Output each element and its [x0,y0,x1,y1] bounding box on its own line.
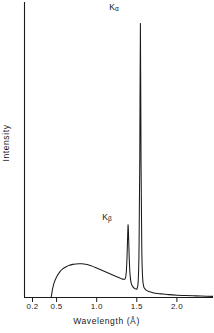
annotation-k-beta-subscript: β [108,215,112,222]
annotation-k-alpha: Kα [109,2,118,12]
xray-spectrum-figure: 0.20.51.01.52.0 Wavelength (Å) Intensity… [0,0,213,333]
x-axis-tick-label: 0.2 [27,302,39,311]
annotation-k-alpha-subscript: α [115,5,119,12]
x-axis-tick-label: 1.5 [131,302,143,311]
x-axis-tick-label: 1.0 [91,302,103,311]
plot-canvas [0,0,213,333]
annotation-k-beta: Kβ [102,212,111,222]
x-axis-tick-label: 0.5 [51,302,63,311]
y-axis-title: Intensity [1,113,11,173]
x-axis-title: Wavelength (Å) [0,316,213,326]
x-axis-tick-label: 2.0 [171,302,183,311]
spectrum-curve [25,23,214,297]
